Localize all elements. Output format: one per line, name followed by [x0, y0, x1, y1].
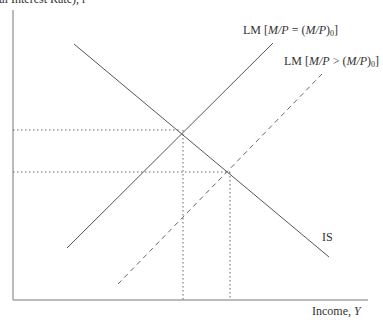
- lm1-curve: [118, 74, 322, 284]
- is-lm-diagram: [0, 0, 383, 328]
- is-curve: [74, 44, 329, 257]
- is-label: IS: [322, 230, 333, 245]
- y-axis-label: (Real Interest Rate), r: [0, 0, 86, 7]
- lm1-label: LM [M/P > (M/P)0]: [284, 54, 379, 69]
- x-axis-label: Income, Y: [312, 304, 361, 319]
- lm0-curve: [67, 43, 273, 248]
- lm0-label: LM [M/P = (M/P)0]: [243, 23, 338, 38]
